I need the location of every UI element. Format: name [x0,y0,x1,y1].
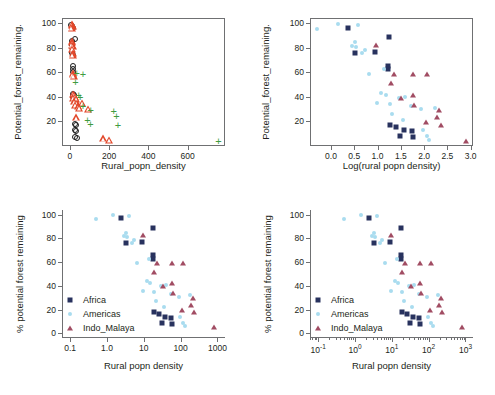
marker-square [402,127,407,132]
marker-circle [401,118,405,122]
marker-circle [389,289,393,293]
marker-triangle [373,42,379,47]
marker-triangle-open [72,114,80,121]
x-axis-title-top-left: Rural_popn_density [62,160,225,171]
x-axis-title-bottom-right: Rural popn density [310,360,473,371]
panel-bottom-right: 020406080100 10-1100101102103 AfricaAmer… [248,198,495,395]
marker-triangle [180,261,186,266]
x-minor-tick-mark [347,338,348,340]
x-minor-tick-mark [344,338,345,340]
x-tick-mark [70,338,71,342]
marker-square [398,133,403,138]
marker-circle [336,22,340,26]
legend-label: Indo_Malaya [83,322,135,334]
marker-circle [147,257,151,261]
x-tick-mark [471,146,472,150]
x-minor-tick-mark [403,338,404,340]
y-tick-mark [58,238,62,239]
marker-circle [130,241,134,245]
marker-square [408,320,413,325]
marker-triangle [67,326,73,331]
y-tick-mark [58,333,62,334]
marker-square [150,225,155,230]
y-tick-label: 80 [276,43,304,53]
marker-square [394,125,399,130]
y-axis-title-bottom-right: % potential forest remaining [262,210,273,338]
x-tick-mark [181,338,182,342]
x-tick-mark [447,146,448,150]
x-minor-tick-mark [353,338,354,340]
x-tick-label: 100 [348,343,361,355]
marker-triangle [151,269,157,274]
marker-circle [68,312,72,316]
marker-circle [141,289,145,293]
y-axis-title-top-left: Potential_forest_remaining. [12,18,23,146]
y-tick-label: 40 [276,92,304,102]
marker-circle [425,295,429,299]
y-tick-mark [306,72,310,73]
marker-circle [135,261,139,265]
marker-circle [431,324,435,328]
y-tick-mark [306,238,310,239]
marker-circle [378,241,382,245]
marker-triangle-open [68,24,76,31]
x-minor-tick-mark [446,338,447,340]
marker-circle [356,23,360,27]
y-tick-label: 0 [276,328,304,338]
marker-square [366,216,371,221]
marker-plus [86,119,95,128]
panel-top-right: 20406080100 0.00.51.01.52.02.53.0 Log(ru… [248,0,495,198]
marker-triangle-open [105,136,113,143]
y-tick-mark [306,215,310,216]
marker-circle [373,235,377,239]
y-axis-title-bottom-left: % potential forest remaining [14,210,25,338]
marker-circle [388,102,392,106]
marker-triangle [424,72,430,77]
marker-circle [162,305,166,309]
y-tick-mark [306,23,310,24]
y-tick-mark [58,72,62,73]
x-tick-mark [144,338,145,342]
marker-square [410,129,415,134]
marker-circle [426,315,430,319]
y-tick-label: 20 [276,305,304,315]
y-tick-label: 40 [276,281,304,291]
data-points-top-left [63,19,224,145]
x-minor-tick-mark [315,338,316,340]
y-tick-mark [58,286,62,287]
marker-circle [382,67,386,71]
y-tick-label: 80 [28,43,56,53]
marker-square [388,240,393,245]
x-axis-title-bottom-left: Rural popn density [62,360,225,371]
y-tick-label: 100 [276,210,304,220]
x-minor-tick-mark [377,338,378,340]
marker-triangle [402,261,408,266]
x-minor-tick-mark [460,338,461,340]
y-tick-label: 40 [28,92,56,102]
x-minor-tick-mark [384,338,385,340]
x-tick-mark [392,338,393,342]
marker-square [163,314,168,319]
x-tick-mark [109,146,110,150]
marker-square [170,321,175,326]
marker-square [417,315,422,320]
y-tick-mark [58,310,62,311]
plot-area-top-right [310,18,473,146]
marker-circle [360,51,364,55]
y-tick-label: 40 [28,281,56,291]
y-tick-label: 60 [276,67,304,77]
marker-triangle [188,302,194,307]
panel-top-left: 20406080100 0200400600 Rural_popn_densit… [0,0,248,198]
y-tick-label: 80 [276,233,304,243]
y-tick-mark [306,333,310,334]
x-tick-mark [424,146,425,150]
marker-square [156,312,161,317]
y-tick-mark [58,23,62,24]
x-tick-label: 10 [139,343,148,353]
marker-circle [354,45,358,49]
marker-triangle [399,269,405,274]
legend-label: Americas [83,308,121,320]
y-tick-mark [58,97,62,98]
marker-square [68,298,73,303]
marker-triangle [315,326,321,331]
